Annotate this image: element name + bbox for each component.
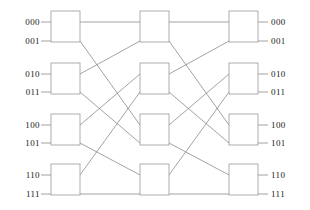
switch-1-1[interactable] [51, 11, 80, 42]
output-label-101: 101 [271, 139, 301, 148]
input-label-110: 110 [14, 171, 40, 180]
switch-2-3[interactable] [140, 114, 169, 145]
switch-1-4[interactable] [51, 164, 80, 195]
output-label-100: 100 [271, 121, 301, 130]
output-label-001: 001 [271, 37, 301, 46]
output-label-111: 111 [271, 190, 301, 199]
link-s2-s3-2 [169, 41, 229, 74]
switch-3-4[interactable] [229, 164, 258, 195]
input-label-000: 000 [14, 18, 40, 27]
link-s1-s2-2 [80, 41, 140, 74]
output-label-010: 010 [271, 70, 301, 79]
switch-3-3[interactable] [229, 114, 258, 145]
input-label-101: 101 [14, 139, 40, 148]
output-label-000: 000 [271, 18, 301, 27]
switch-2-1[interactable] [140, 11, 169, 42]
link-s1-s2-6 [80, 92, 140, 175]
network-diagram: 000 001 010 011 100 101 110 111 000 001 … [0, 0, 310, 210]
link-s1-s2-1 [80, 41, 140, 125]
link-s2-s3-6 [169, 92, 229, 175]
input-label-111: 111 [14, 190, 40, 199]
network-canvas [0, 0, 310, 210]
input-label-100: 100 [14, 121, 40, 130]
input-label-011: 011 [14, 88, 40, 97]
switch-1-2[interactable] [51, 63, 80, 94]
link-s2-s3-5 [169, 143, 229, 175]
switch-1-3[interactable] [51, 114, 80, 145]
input-label-001: 001 [14, 37, 40, 46]
output-label-011: 011 [271, 88, 301, 97]
input-label-010: 010 [14, 70, 40, 79]
switch-2-2[interactable] [140, 63, 169, 94]
switch-3-2[interactable] [229, 63, 258, 94]
link-s1-s2-5 [80, 143, 140, 175]
output-label-110: 110 [271, 171, 301, 180]
link-s2-s3-1 [169, 41, 229, 125]
switch-3-1[interactable] [229, 11, 258, 42]
switch-2-4[interactable] [140, 164, 169, 195]
